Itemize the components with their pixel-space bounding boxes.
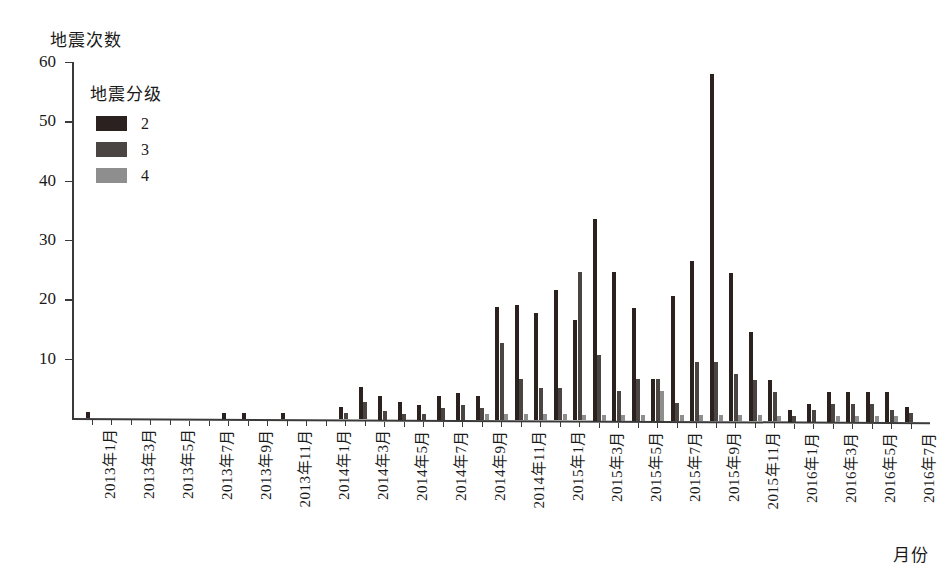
bar: [402, 414, 406, 420]
x-tick-mark: [852, 424, 853, 429]
bar: [480, 408, 484, 420]
x-tick-mark: [833, 424, 834, 429]
bar: [827, 392, 831, 422]
y-tick-label: 50: [39, 112, 56, 129]
bar: [242, 413, 246, 419]
x-tick-mark: [365, 421, 366, 426]
bar: [441, 408, 445, 420]
x-tick-label: 2015年7月: [683, 431, 704, 502]
bar: [792, 416, 796, 422]
bar: [905, 407, 909, 422]
bar: [554, 290, 558, 421]
x-tick-mark: [131, 420, 132, 425]
y-axis-title: 地震次数: [50, 26, 122, 51]
bar: [636, 379, 640, 421]
bar: [456, 393, 460, 420]
bar: [461, 405, 465, 420]
x-tick-mark: [813, 424, 814, 429]
legend-swatch-icon: [96, 168, 127, 183]
x-tick-mark: [345, 421, 346, 426]
bar: [417, 405, 421, 420]
x-tick-mark: [287, 421, 288, 426]
bar: [836, 416, 840, 422]
legend-item-4[interactable]: 4: [90, 164, 162, 187]
x-tick-label: 2013年11月: [293, 429, 314, 507]
x-tick-mark: [170, 420, 171, 425]
bar: [851, 404, 855, 422]
bar: [909, 413, 913, 422]
bar: [359, 387, 363, 420]
bar: [773, 392, 777, 422]
x-tick-mark: [306, 421, 307, 426]
bar: [524, 414, 528, 420]
legend-swatch-icon: [96, 116, 127, 131]
x-tick-mark: [638, 423, 639, 428]
legend: 地震分级 234: [90, 80, 162, 190]
bar: [344, 413, 348, 419]
bar: [515, 305, 519, 421]
x-tick-label: 2015年1月: [566, 430, 587, 501]
y-tick-50: 50: [65, 121, 72, 122]
bar: [885, 392, 889, 422]
y-tick-40: 40: [65, 181, 72, 182]
x-tick-mark: [443, 422, 444, 427]
x-tick-label: 2016年7月: [917, 432, 938, 503]
x-tick-label: 2014年7月: [449, 430, 470, 501]
y-tick-20: 20: [65, 299, 72, 300]
x-tick-mark: [189, 421, 190, 426]
bar: [671, 296, 675, 421]
legend-item-3[interactable]: 3: [90, 138, 162, 161]
x-tick-mark: [404, 422, 405, 427]
bar: [281, 413, 285, 419]
bar: [578, 272, 582, 420]
bar: [582, 415, 586, 421]
x-tick-label: 2014年1月: [332, 429, 353, 500]
chart-root: 地震次数 102030405060 地震分级 234 2013年1月2013年3…: [0, 0, 943, 578]
x-tick-mark: [891, 424, 892, 429]
x-tick-label: 2014年3月: [371, 429, 392, 500]
legend-item-label: 3: [141, 142, 149, 158]
x-tick-mark: [599, 423, 600, 428]
bar: [363, 402, 367, 420]
bar: [539, 388, 543, 421]
bar: [651, 379, 655, 421]
bar: [870, 404, 874, 422]
x-tick-label: 2015年3月: [605, 431, 626, 502]
bar: [378, 396, 382, 420]
x-tick-label: 2013年3月: [137, 428, 158, 499]
bar: [563, 414, 567, 420]
bar: [495, 307, 499, 420]
bar: [476, 396, 480, 420]
bar: [612, 272, 616, 420]
x-tick-mark: [794, 424, 795, 429]
bar: [714, 362, 718, 421]
bar: [719, 415, 723, 421]
bar: [749, 332, 753, 421]
x-tick-mark: [735, 423, 736, 428]
x-tick-mark: [657, 423, 658, 428]
bar: [222, 413, 226, 419]
legend-item-2[interactable]: 2: [90, 112, 162, 135]
bar: [437, 396, 441, 420]
bar: [675, 403, 679, 421]
bar: [710, 74, 714, 421]
bar: [558, 388, 562, 421]
bar: [573, 320, 577, 421]
y-tick-60: 60: [65, 62, 72, 63]
x-tick-mark: [111, 420, 112, 425]
x-tick-mark: [560, 422, 561, 427]
bar: [680, 415, 684, 421]
bar: [855, 416, 859, 422]
bar: [660, 391, 664, 421]
bar: [812, 410, 816, 422]
x-tick-label: 2014年11月: [527, 430, 548, 508]
x-tick-mark: [209, 421, 210, 426]
bar: [543, 414, 547, 420]
bar: [738, 415, 742, 421]
bar: [758, 415, 762, 421]
plot-area: 102030405060: [72, 62, 930, 418]
x-axis-title: 月份: [893, 541, 929, 566]
bar: [690, 261, 694, 421]
x-tick-mark: [501, 422, 502, 427]
legend-entries: 234: [90, 112, 162, 187]
